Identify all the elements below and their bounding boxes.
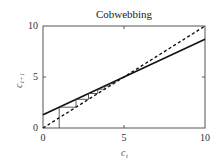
x-tick-label-0: 0 — [41, 132, 46, 143]
identity-line — [43, 26, 205, 128]
y-axis-label: c t+1 — [13, 73, 26, 88]
x-tick-label-5: 5 — [122, 132, 127, 143]
chart-canvas: 0 5 10 0 5 10 c t c t+1 — [0, 0, 220, 164]
y-tick-label-10: 10 — [28, 20, 38, 31]
plot-series — [43, 26, 205, 128]
y-tick-label-5: 5 — [33, 71, 38, 82]
svg-text:t: t — [126, 152, 129, 160]
y-tick-label-0: 0 — [33, 122, 38, 133]
cobweb-line — [59, 82, 116, 128]
x-tick-label-10: 10 — [200, 132, 210, 143]
svg-text:t+1: t+1 — [18, 73, 26, 83]
x-axis-label: c t — [121, 147, 129, 160]
